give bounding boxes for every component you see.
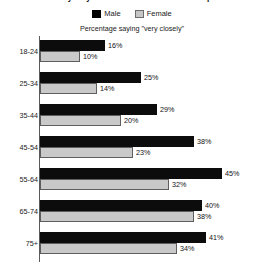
chart-subtitle: Percentage saying "very closely" [0, 24, 264, 33]
bar-group: 25-3425%14% [0, 70, 264, 102]
bar-group: 75+41%34% [0, 230, 264, 262]
bar-value-label: 25% [144, 73, 158, 82]
bar-female [40, 211, 194, 222]
bar-value-label: 29% [160, 105, 174, 114]
category-label: 65-74 [0, 207, 38, 216]
bar-female [40, 179, 169, 190]
category-label: 25-34 [0, 79, 38, 88]
bar-group: 55-6445%32% [0, 166, 264, 198]
bar-value-label: 10% [83, 52, 97, 61]
bar-male [40, 40, 105, 51]
bar-value-label: 38% [197, 137, 211, 146]
bar-male [40, 136, 194, 147]
bar-value-label: 38% [197, 212, 211, 221]
category-label: 35-44 [0, 111, 38, 120]
bar-female [40, 51, 80, 62]
bar-value-label: 40% [205, 201, 219, 210]
bar-value-label: 20% [124, 116, 138, 125]
bar-value-label: 41% [209, 233, 223, 242]
plot-area: 18-2416%10%25-3425%14%35-4429%20%45-5438… [0, 36, 264, 267]
bar-male [40, 200, 202, 211]
bar-value-label: 45% [225, 169, 239, 178]
bar-value-label: 14% [100, 84, 114, 93]
chart-legend: Male Female [0, 9, 264, 18]
chart-title: How closely do you follow news about nat… [0, 0, 264, 2]
legend-swatch-female-icon [135, 10, 144, 18]
bar-female [40, 115, 121, 126]
legend-swatch-male-icon [92, 10, 101, 18]
bar-group: 35-4429%20% [0, 102, 264, 134]
bar-value-label: 16% [108, 41, 122, 50]
bar-value-label: 23% [136, 148, 150, 157]
bar-value-label: 32% [172, 180, 186, 189]
bar-male [40, 232, 206, 243]
legend-label-female: Female [147, 9, 172, 18]
category-label: 55-64 [0, 175, 38, 184]
bar-female [40, 243, 177, 254]
category-label: 45-54 [0, 143, 38, 152]
bar-group: 65-7440%38% [0, 198, 264, 230]
bar-value-label: 34% [180, 244, 194, 253]
bar-male [40, 72, 141, 83]
bar-group: 45-5438%23% [0, 134, 264, 166]
bar-male [40, 168, 222, 179]
category-label: 75+ [0, 239, 38, 248]
category-label: 18-24 [0, 47, 38, 56]
bar-female [40, 83, 97, 94]
legend-item-female: Female [135, 9, 172, 18]
bar-female [40, 147, 133, 158]
bar-male [40, 104, 157, 115]
bar-group: 18-2416%10% [0, 38, 264, 70]
legend-label-male: Male [104, 9, 120, 18]
bar-chart-figure: How closely do you follow news about nat… [0, 0, 264, 267]
legend-item-male: Male [92, 9, 120, 18]
